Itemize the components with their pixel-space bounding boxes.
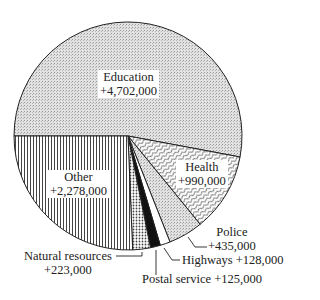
- other-value: +2,278,000: [50, 184, 107, 198]
- natural-value: +223,000: [24, 263, 112, 277]
- natural-name: Natural resources: [24, 249, 112, 263]
- education-value: +4,702,000: [100, 84, 157, 98]
- label-police: Police +435,000: [208, 225, 256, 253]
- label-highways: Highways +128,000: [182, 253, 284, 267]
- label-other: Other +2,278,000: [48, 170, 109, 198]
- police-name: Police: [208, 225, 256, 239]
- education-name: Education: [100, 70, 157, 84]
- label-education: Education +4,702,000: [98, 70, 159, 98]
- label-natural: Natural resources +223,000: [24, 249, 112, 277]
- health-value: +990,000: [178, 174, 226, 188]
- highways-leader-line: [164, 248, 180, 260]
- natural-leader-line: [116, 252, 142, 256]
- health-name: Health: [178, 160, 226, 174]
- police-leader-line: [188, 237, 207, 247]
- police-value: +435,000: [208, 239, 256, 253]
- label-postal: Postal service +125,000: [142, 272, 262, 286]
- other-name: Other: [50, 170, 107, 184]
- label-health: Health +990,000: [176, 160, 228, 188]
